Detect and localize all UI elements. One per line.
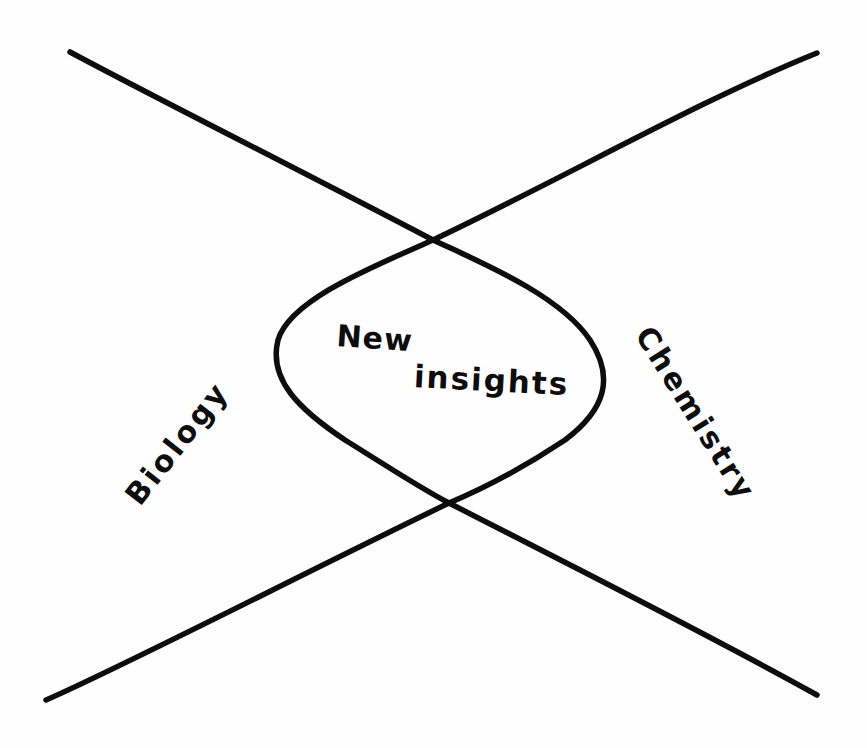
label-new: New xyxy=(336,318,414,358)
line-upper-left-arm xyxy=(70,52,433,240)
line-upper-right-arm xyxy=(433,53,817,240)
line-lower-right-arm xyxy=(449,503,817,695)
diagram-canvas: New insights Biology Chemistry xyxy=(0,0,867,748)
line-lower-left-arm xyxy=(46,503,449,700)
